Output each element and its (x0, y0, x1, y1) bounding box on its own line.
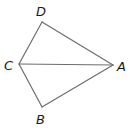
edge-cd (19, 22, 42, 64)
label-b: B (36, 112, 45, 127)
edge-ca (19, 64, 113, 65)
edge-bc (19, 64, 42, 107)
label-d: D (36, 4, 46, 19)
label-a: A (116, 59, 126, 74)
edge-ab (42, 65, 113, 107)
label-c: C (4, 58, 14, 73)
edge-da (42, 22, 113, 65)
edges (19, 22, 113, 107)
kite-diagram: A B C D (0, 0, 132, 135)
